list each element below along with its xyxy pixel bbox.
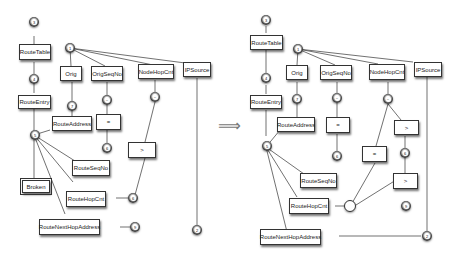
empty-node-circle [344, 200, 356, 212]
box-node-hop-cnt[interactable]: NodeHopCnt [369, 64, 405, 80]
circle-label: ~ [335, 96, 340, 101]
node-circle-1: 1 [293, 44, 303, 54]
circle-label: ~ [386, 97, 391, 102]
circle-label: 7 [70, 104, 75, 109]
node-circle-4: 4 [29, 74, 39, 84]
box-broken[interactable]: Broken [22, 180, 50, 193]
box-greater-2[interactable]: > [393, 173, 418, 189]
node-circle-orig-seq: ~ [332, 93, 342, 103]
box-greater-1[interactable]: > [394, 120, 419, 135]
circle-label: 6 [403, 151, 408, 156]
node-circle-1: 1 [65, 43, 75, 53]
box-route-hop-cnt[interactable]: RouteHopCnt [289, 198, 329, 214]
node-circle-3: 3 [261, 15, 271, 25]
box-greater[interactable]: > [128, 142, 156, 158]
box-route-entry[interactable]: RouteEntry [18, 95, 51, 109]
box-route-next-hop-address[interactable]: RouteNextHopAddress [39, 219, 100, 235]
node-circle-orig-seq: ~ [102, 95, 112, 105]
circle-label: 3 [32, 20, 37, 25]
node-circle-node-hop: ~ [150, 92, 160, 102]
circle-label: 3 [264, 18, 269, 23]
node-circle-6a: 6 [332, 151, 342, 161]
box-ip-source[interactable]: IPSource [414, 62, 442, 77]
box-orig[interactable]: Orig [286, 65, 308, 80]
circle-label: 6 [335, 154, 340, 159]
circle-label: 5 [265, 144, 270, 149]
box-route-entry[interactable]: RouteEntry [250, 95, 282, 109]
node-circle-6b: 6 [128, 193, 138, 203]
circle-label: 7 [295, 97, 300, 102]
box-orig[interactable]: Orig [60, 66, 82, 81]
box-orig-seq-no[interactable]: OrigSeqNo [320, 65, 352, 80]
box-equals-2[interactable]: = [362, 146, 387, 162]
node-circle-2: 2 [192, 225, 202, 235]
node-circle-2: 2 [422, 231, 432, 241]
circle-label: 1 [296, 47, 301, 52]
node-circle-6a: 6 [102, 143, 112, 153]
circle-label: 2 [425, 234, 430, 239]
circle-label: 1 [68, 46, 73, 51]
node-circle-9: 9 [401, 201, 411, 211]
circle-label: 6 [131, 196, 136, 201]
circle-label: 9 [133, 225, 138, 230]
circle-label: ~ [153, 95, 158, 100]
box-route-next-hop-address[interactable]: RouteNextHopAddress [260, 229, 321, 245]
circle-label: 6 [105, 146, 110, 151]
node-circle-3: 3 [29, 17, 39, 27]
box-route-table[interactable]: RouteTable [250, 35, 283, 50]
transition-arrow: ⟹ [218, 116, 241, 135]
box-equals-1[interactable]: = [326, 117, 350, 133]
node-circle-node-hop: ~ [383, 94, 393, 104]
box-equals[interactable]: = [96, 114, 121, 130]
box-node-hop-cnt[interactable]: NodeHopCnt [138, 64, 174, 79]
box-route-seq-no[interactable]: RouteSeqNo [300, 173, 337, 188]
node-circle-5: 5 [30, 130, 40, 140]
box-route-seq-no[interactable]: RouteSeqNo [72, 160, 110, 176]
node-circle-4: 4 [261, 73, 271, 83]
circle-label: 2 [195, 228, 200, 233]
node-circle-7: 7 [292, 94, 302, 104]
circle-label: ~ [105, 98, 110, 103]
box-orig-seq-no[interactable]: OrigSeqNo [91, 66, 123, 81]
circle-label: 4 [32, 77, 37, 82]
node-circle-9: 9 [130, 222, 140, 232]
box-route-address[interactable]: RouteAddress [52, 116, 92, 131]
box-route-table[interactable]: RouteTable [19, 44, 51, 60]
box-route-address[interactable]: RouteAddress [277, 117, 315, 132]
circle-label: 4 [264, 76, 269, 81]
circle-label: 9 [404, 204, 409, 209]
node-circle-6b: 6 [400, 148, 410, 158]
circle-label: 5 [33, 133, 38, 138]
node-circle-5: 5 [262, 141, 272, 151]
node-circle-7: 7 [67, 101, 77, 111]
box-ip-source[interactable]: IPSource [183, 62, 211, 77]
box-route-hop-cnt[interactable]: RouteHopCnt [66, 191, 106, 207]
